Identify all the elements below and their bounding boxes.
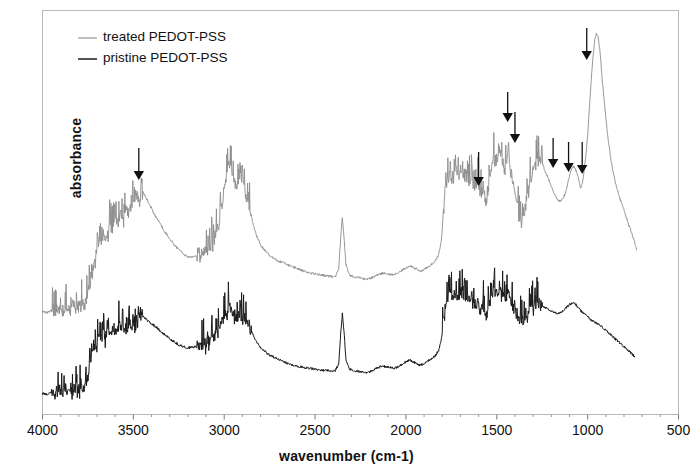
x-tick-label: 1000	[572, 422, 603, 438]
x-axis-label: wavenumber (cm-1)	[0, 448, 693, 464]
plot-canvas	[0, 0, 693, 474]
x-tick-label: 1500	[481, 422, 512, 438]
x-axis-ticks	[43, 415, 679, 420]
x-tick-label: 3500	[118, 422, 149, 438]
x-tick-label: 3000	[209, 422, 240, 438]
legend-item-label: pristine PEDOT-PSS	[103, 50, 228, 65]
x-tick-label: 2000	[390, 422, 421, 438]
x-tick-label: 2500	[299, 422, 330, 438]
legend-item-label: treated PEDOT-PSS	[103, 29, 226, 44]
y-axis-label: absorbance	[68, 78, 84, 238]
plot-frame	[43, 11, 679, 415]
x-tick-label: 500	[667, 422, 690, 438]
x-tick-label: 4000	[27, 422, 58, 438]
ftir-spectrum-figure: absorbance wavenumber (cm-1) 40003500300…	[0, 0, 693, 474]
